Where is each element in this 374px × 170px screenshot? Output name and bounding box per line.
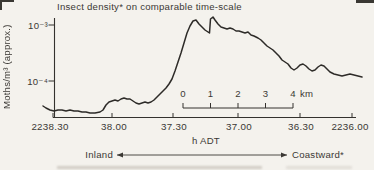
scale-bar-tick-label: 1 [208,88,214,99]
scale-bar-tick-label: 3 [263,88,269,99]
chart-title: Insect density* on comparable time-scale [57,1,242,12]
x-tick-label: 2236.00 [331,121,368,132]
direction-label-coastward: Coastward* [292,149,344,160]
insect-density-figure: Insect density* on comparable time-scale… [0,0,374,170]
x-axis-label: h ADT [180,135,232,146]
scale-bar-tick-label: 0 [180,88,186,99]
caption-smudge [57,166,262,170]
x-tick-label: 38.00 [101,121,127,132]
y-tick-label: 10⁻⁴ [16,76,48,87]
arrowhead-left-icon [117,152,123,157]
density-curve [43,17,362,113]
scale-bar-tick-label: 4 [290,88,296,99]
y-axis-label: Moths/m³ (approx.) [1,14,16,120]
x-tick-label: 36.30 [288,121,314,132]
x-tick-label: 37.00 [226,121,252,132]
scale-bar-tick-label: 2 [235,88,241,99]
arrowhead-right-icon [281,152,287,157]
x-tick-label: 37.30 [161,121,187,132]
y-tick-label: 10⁻³ [16,20,48,31]
direction-label-inland: Inland [61,149,113,160]
caption-smudge [286,166,352,169]
scale-bar-unit-label: km [300,88,313,99]
x-tick-label: 2238.30 [31,121,68,132]
